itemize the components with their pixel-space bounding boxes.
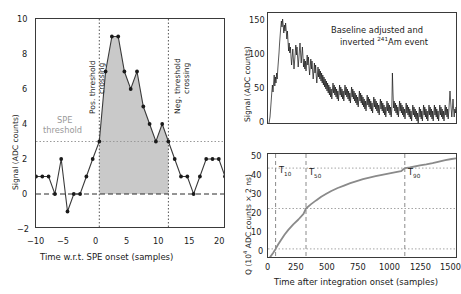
panel-spe-waveform: Signal (ADC counts) 10 8 6 4 2 0 −2 −10 …: [0, 0, 232, 294]
figure-container: Signal (ADC counts) 10 8 6 4 2 0 −2 −10 …: [0, 0, 461, 294]
charge-t10-label-sub: 10: [284, 171, 291, 177]
charge-xtick-750: 750: [350, 262, 366, 272]
charge-t90-label: T90: [408, 167, 420, 180]
spe-xtick-15: 15: [184, 236, 194, 246]
spe-ytick-0: 0: [22, 189, 27, 199]
charge-ylabel-exponent: 4: [242, 251, 248, 254]
spe-x-axis-label: Time w.r.t. SPE onset (samples): [40, 252, 173, 262]
charge-xtick-500: 500: [319, 262, 335, 272]
spe-pos-crossing-label-line1: Pos. threshold: [88, 60, 97, 114]
spe-shaded-region: [99, 37, 168, 195]
spe-ytick-10: 10: [17, 14, 27, 24]
charge-t50-label-sub: 50: [314, 173, 321, 179]
spe-xtick-m5: −5: [57, 236, 69, 246]
panel-charge-integral: Q (104 ADC counts × 2 ns) 50 40 30 20 10…: [232, 145, 461, 294]
spe-plot-area: Pos. threshold crossing Neg. threshold c…: [35, 18, 225, 228]
am241-annot-isotope: 241: [377, 36, 388, 42]
charge-xtick-1250: 1250: [410, 262, 431, 272]
spe-y-axis-label: Signal (ADC counts): [11, 114, 20, 190]
charge-x-axis-label: Time after integration onset (samples): [274, 277, 438, 287]
spe-ytick-4: 4: [22, 119, 27, 129]
charge-ytick-50: 50: [251, 151, 261, 161]
am241-ytick-150: 150: [249, 15, 265, 25]
charge-plot-svg: [268, 154, 457, 258]
charge-ylabel-pre: Q (10: [244, 254, 253, 275]
spe-xtick-m10: −10: [27, 236, 44, 246]
charge-ytick-0: 0: [258, 246, 263, 256]
charge-t10-label: T10: [279, 165, 291, 178]
spe-neg-crossing-label-line2: crossing: [182, 63, 191, 94]
am241-annotation-line2: inverted 241Am event: [340, 36, 428, 47]
charge-ytick-10: 10: [251, 227, 261, 237]
spe-xtick-10: 10: [153, 236, 163, 246]
spe-ytick-m2: −2: [17, 224, 29, 234]
charge-plot-area: T10 T50 T90: [267, 153, 457, 258]
spe-xtick-0: 0: [93, 236, 98, 246]
charge-ytick-40: 40: [251, 170, 261, 180]
am241-annot-post: Am event: [388, 37, 428, 47]
am241-plot-area: Baseline adjusted and inverted 241Am eve…: [267, 12, 457, 124]
charge-integral-curve: [268, 158, 457, 258]
charge-xtick-1500: 1500: [440, 262, 461, 272]
charge-xtick-250: 250: [288, 262, 304, 272]
panel-am241-waveform: Signal (ADC counts) 150 100 50 0 Baselin…: [232, 0, 461, 145]
charge-ytick-30: 30: [251, 189, 261, 199]
spe-xtick-5: 5: [124, 236, 129, 246]
charge-t90-label-sub: 90: [413, 173, 420, 179]
spe-pos-crossing-label-line2: crossing: [97, 63, 106, 94]
spe-ytick-6: 6: [22, 84, 27, 94]
spe-neg-crossing-label-line1: Neg. threshold: [173, 58, 182, 114]
am241-annot-pre: inverted: [340, 37, 377, 47]
am241-annotation-line1: Baseline adjusted and: [331, 25, 423, 35]
charge-xtick-0: 0: [265, 262, 270, 272]
charge-ytick-20: 20: [251, 208, 261, 218]
spe-xtick-20: 20: [214, 236, 224, 246]
am241-ytick-50: 50: [254, 83, 264, 93]
am241-ytick-100: 100: [249, 49, 265, 59]
spe-ytick-8: 8: [22, 49, 27, 59]
spe-threshold-label-line1: SPE: [57, 115, 73, 125]
spe-threshold-label-line2: threshold: [43, 125, 82, 135]
am241-ytick-0: 0: [259, 117, 264, 127]
spe-ytick-2: 2: [22, 154, 27, 164]
charge-xtick-1000: 1000: [379, 262, 400, 272]
charge-t50-label: T50: [309, 167, 321, 180]
